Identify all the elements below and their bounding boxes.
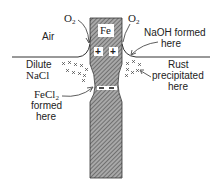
rust-label-line2: precipitated xyxy=(152,70,204,81)
o2-left-label: O2 xyxy=(64,12,76,26)
rust-label-line1: Rust xyxy=(168,59,189,70)
plus-sign-right: + xyxy=(110,46,116,57)
plus-sign-left: + xyxy=(95,46,101,57)
fe-label: Fe xyxy=(100,24,111,36)
o2-left-arrow xyxy=(78,20,89,42)
rust-arrow xyxy=(141,71,151,77)
nacl-label: NaCl xyxy=(26,69,49,81)
air-label: Air xyxy=(42,31,55,42)
precipitate-crosses-left xyxy=(62,61,88,82)
fecl2-label-line2: formed xyxy=(31,100,62,111)
naoh-label-line2: here xyxy=(161,38,181,49)
waterline-left xyxy=(12,44,90,57)
corrosion-diagram: Fe + + Air O2 O2 NaOH formed here Dilute… xyxy=(0,0,222,184)
fecl2-arrow xyxy=(62,88,92,96)
precipitate-crosses-right xyxy=(125,60,141,77)
iron-bar xyxy=(90,18,122,178)
naoh-label-line1: NaOH formed xyxy=(144,27,206,38)
o2-right-arrow xyxy=(123,24,130,42)
rust-label-line3: here xyxy=(168,81,188,92)
fecl2-label-line3: here xyxy=(36,111,56,122)
naoh-arrow xyxy=(132,42,158,54)
